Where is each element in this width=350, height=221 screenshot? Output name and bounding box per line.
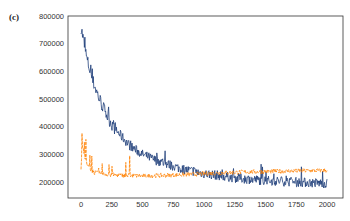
series-blue-line — [81, 29, 327, 188]
y-axis-ticks: 2000003000004000005000006000007000008000… — [39, 12, 64, 187]
y-tick-label: 400000 — [39, 122, 64, 131]
y-tick-label: 300000 — [39, 150, 64, 159]
x-tick-label: 250 — [105, 200, 118, 209]
y-tick-label: 600000 — [39, 67, 64, 76]
x-tick-label: 2000 — [319, 200, 336, 209]
x-tick-label: 1500 — [257, 200, 274, 209]
x-axis-ticks: 025050075010001250150017502000 — [79, 200, 335, 209]
y-tick-label: 500000 — [39, 95, 64, 104]
series-layer — [81, 29, 327, 188]
x-tick-label: 1750 — [288, 200, 305, 209]
x-tick-label: 750 — [167, 200, 180, 209]
y-tick-label: 800000 — [39, 12, 64, 21]
x-tick-label: 1250 — [226, 200, 243, 209]
y-tick-label: 700000 — [39, 39, 64, 48]
series-orange-line — [81, 133, 327, 178]
x-tick-label: 500 — [136, 200, 149, 209]
x-tick-label: 0 — [79, 200, 83, 209]
line-chart: 2000003000004000005000006000007000008000… — [0, 0, 350, 221]
x-tick-label: 1000 — [196, 200, 213, 209]
y-tick-label: 200000 — [39, 178, 64, 187]
